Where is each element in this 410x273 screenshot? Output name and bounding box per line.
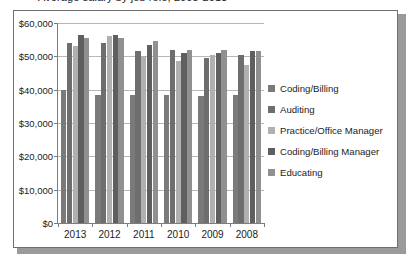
legend-item: Coding/Billing: [268, 78, 396, 99]
bar: [107, 36, 112, 223]
bar-group: [230, 23, 264, 223]
x-tick-mark: [230, 223, 231, 227]
legend-item: Practice/Office Manager: [268, 120, 396, 141]
y-tick-label: $10,000: [19, 184, 53, 195]
bar: [61, 90, 66, 223]
x-tick-mark: [161, 223, 162, 227]
y-tick-label: $60,000: [19, 18, 53, 29]
bar: [176, 61, 181, 223]
bar-series-container: [58, 23, 264, 223]
x-tick-mark: [58, 223, 59, 227]
legend-item-label: Coding/Billing: [280, 84, 339, 94]
x-tick-label: 2011: [133, 229, 155, 240]
legend-swatch-icon: [268, 106, 275, 113]
bar: [135, 51, 140, 223]
x-tick-mark: [195, 223, 196, 227]
bar: [141, 56, 146, 223]
x-tick-mark: [127, 223, 128, 227]
bar: [256, 51, 261, 223]
x-tick-mark: [92, 223, 93, 227]
legend-swatch-icon: [268, 148, 275, 155]
bar: [113, 35, 118, 223]
x-tick-label: 2009: [201, 229, 223, 240]
bar: [78, 35, 83, 223]
bar: [101, 43, 106, 223]
bar: [238, 55, 243, 223]
legend-swatch-icon: [268, 85, 275, 92]
bar: [187, 50, 192, 223]
legend-item-label: Auditing: [280, 105, 315, 115]
chart-title-cropped: Average salary by job role, 2008-2013: [0, 0, 410, 7]
bar-group: [127, 23, 161, 223]
bar: [181, 53, 186, 223]
y-tick-label: $30,000: [19, 118, 53, 129]
bar: [67, 43, 72, 223]
bar: [210, 55, 215, 223]
bar: [221, 50, 226, 223]
legend-item-label: Practice/Office Manager: [280, 126, 383, 136]
x-tick-label: 2010: [167, 229, 189, 240]
bar-group: [195, 23, 229, 223]
bar: [216, 53, 221, 223]
bar: [73, 46, 78, 223]
plot-area: $0$10,000$20,000$30,000$40,000$50,000$60…: [58, 23, 264, 223]
bar: [130, 95, 135, 223]
bar-group: [161, 23, 195, 223]
legend-swatch-icon: [268, 169, 275, 176]
chart-legend: Coding/BillingAuditingPractice/Office Ma…: [268, 78, 396, 183]
bar: [244, 65, 249, 223]
bar: [153, 41, 158, 223]
legend-item: Coding/Billing Manager: [268, 141, 396, 162]
bar-group: [58, 23, 92, 223]
legend-item-label: Coding/Billing Manager: [280, 147, 379, 157]
x-tick-label: 2008: [236, 229, 258, 240]
bar: [164, 95, 169, 223]
legend-item: Auditing: [268, 99, 396, 120]
legend-item: Educating: [268, 162, 396, 183]
bar: [198, 96, 203, 223]
bar: [250, 51, 255, 223]
x-tick-label: 2012: [98, 229, 120, 240]
bar: [233, 95, 238, 223]
y-tick-label: $50,000: [19, 51, 53, 62]
chart-figure: Average salary by job role, 2008-2013 $0…: [0, 0, 410, 273]
bar: [118, 38, 123, 223]
legend-swatch-icon: [268, 127, 275, 134]
y-tick-label: $20,000: [19, 151, 53, 162]
bar: [204, 58, 209, 223]
x-tick-label: 2013: [64, 229, 86, 240]
bar: [147, 45, 152, 223]
bar: [84, 38, 89, 223]
y-tick-label: $40,000: [19, 84, 53, 95]
y-tick-label: $0: [42, 218, 53, 229]
chart-title-text: Average salary by job role, 2008-2013: [38, 0, 227, 3]
x-tick-mark: [264, 223, 265, 227]
legend-item-label: Educating: [280, 168, 323, 178]
bar-group: [92, 23, 126, 223]
bar: [170, 50, 175, 223]
bar: [95, 95, 100, 223]
